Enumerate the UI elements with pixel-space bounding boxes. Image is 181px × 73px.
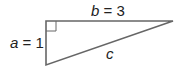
right-triangle-diagram: b = 3 a = 1 c — [0, 0, 181, 73]
label-c: c — [106, 45, 114, 62]
label-b: b = 3 — [91, 2, 125, 19]
right-angle-marker-icon — [46, 21, 56, 31]
label-a: a = 1 — [10, 34, 44, 51]
